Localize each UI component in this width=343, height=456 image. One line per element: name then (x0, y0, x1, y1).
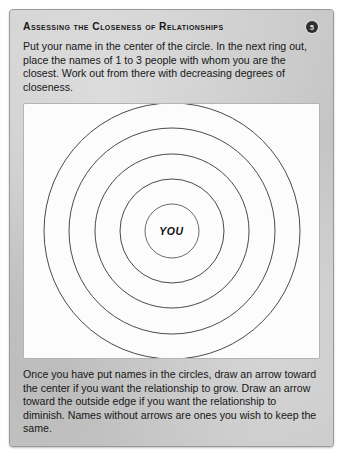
page-title: Assessing the Closeness of Relationships (23, 21, 224, 32)
intro-instructions: Put your name in the center of the circl… (23, 40, 320, 94)
ring-3 (95, 154, 249, 308)
ring-2 (120, 179, 224, 283)
relationship-circles-diagram[interactable]: YOU (23, 103, 320, 359)
closing-instructions: Once you have put names in the circles, … (23, 368, 320, 436)
page-number-badge-icon: 5 (306, 21, 318, 33)
concentric-circles-svg (40, 103, 304, 359)
ring-5-outermost (44, 103, 300, 359)
worksheet-card: Assessing the Closeness of Relationships… (9, 9, 334, 447)
worksheet-body: Assessing the Closeness of Relationships… (10, 10, 333, 446)
worksheet-header: Assessing the Closeness of Relationships… (23, 21, 320, 33)
ring-1-innermost (145, 204, 199, 258)
ring-4 (69, 128, 275, 334)
